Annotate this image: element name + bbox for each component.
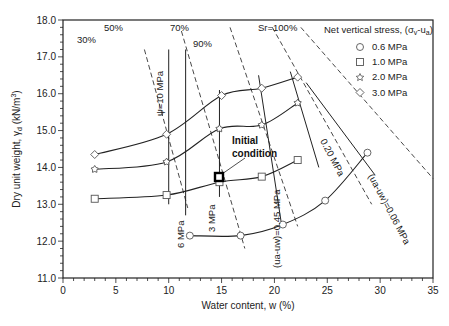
saturation-line bbox=[144, 49, 187, 207]
star-marker-icon bbox=[91, 165, 98, 172]
legend: Net vertical stress, (σv-ua) 0.6 MPa 1.0… bbox=[324, 24, 433, 98]
suction-line bbox=[290, 72, 319, 168]
star-marker-icon bbox=[294, 99, 301, 106]
legend-square-icon bbox=[357, 59, 364, 66]
sr-30-label: 30% bbox=[77, 34, 97, 45]
x-tick-label: 15 bbox=[216, 285, 228, 296]
legend-label-0: 0.6 MPa bbox=[372, 41, 408, 52]
legend-label-1: 1.0 MPa bbox=[372, 56, 408, 67]
diamond-marker-icon bbox=[163, 130, 171, 138]
sr-90-label: 90% bbox=[193, 38, 213, 49]
diamond-marker-icon bbox=[218, 92, 226, 100]
x-tick-label: 30 bbox=[375, 285, 387, 296]
y-axis-title: Dry unit weight, γd (kN/m3) bbox=[10, 90, 23, 207]
legend-title: Net vertical stress, (σv-ua) bbox=[324, 24, 433, 36]
circle-marker-icon bbox=[186, 232, 193, 239]
square-marker-icon bbox=[163, 192, 170, 199]
circle-marker-icon bbox=[364, 149, 371, 156]
circle-marker-icon bbox=[322, 197, 329, 204]
saturation-line bbox=[272, 27, 371, 204]
initial-condition-leader bbox=[222, 158, 245, 174]
square-marker-icon bbox=[91, 195, 98, 202]
legend-diamond-icon bbox=[356, 89, 364, 97]
chart: 0510152025303511.012.013.014.015.016.017… bbox=[0, 0, 449, 326]
initial-condition-label-2: condition bbox=[232, 148, 277, 159]
suction-020-label: 0.20 MPa bbox=[318, 137, 347, 179]
suction-3-label: 3 MPa bbox=[206, 204, 217, 232]
square-marker-icon bbox=[258, 173, 265, 180]
legend-label-3: 3.0 MPa bbox=[372, 87, 408, 98]
y-tick-label: 14.0 bbox=[37, 162, 57, 173]
legend-label-2: 2.0 MPa bbox=[372, 71, 408, 82]
y-tick-label: 16.0 bbox=[37, 88, 57, 99]
legend-star-icon bbox=[356, 74, 364, 81]
y-tick-label: 13.0 bbox=[37, 199, 57, 210]
diamond-marker-icon bbox=[91, 151, 99, 159]
x-tick-label: 35 bbox=[427, 285, 439, 296]
series-curve bbox=[95, 77, 298, 154]
star-marker-icon bbox=[258, 121, 265, 128]
diamond-marker-icon bbox=[258, 84, 266, 92]
x-tick-label: 0 bbox=[60, 285, 66, 296]
y-tick-label: 17.0 bbox=[37, 51, 57, 62]
initial-condition-marker bbox=[215, 173, 223, 181]
x-tick-label: 5 bbox=[113, 285, 119, 296]
suction-10-label: ψ=10 MPa bbox=[154, 70, 165, 116]
legend-circle-icon bbox=[357, 44, 364, 51]
suction-006-label: (ua-uw)=0.06 MPa bbox=[366, 172, 413, 247]
initial-condition-label-1: Initial bbox=[232, 135, 258, 146]
star-marker-icon bbox=[216, 125, 223, 132]
suction-045-label: (ua-uw)=0.45 MPa bbox=[271, 189, 282, 268]
series-curve bbox=[95, 160, 298, 199]
y-tick-label: 15.0 bbox=[37, 125, 57, 136]
x-tick-label: 25 bbox=[322, 285, 334, 296]
sr-50-label: 50% bbox=[104, 22, 124, 33]
sr-100-label: Sr=100% bbox=[258, 22, 298, 33]
y-tick-label: 11.0 bbox=[37, 273, 56, 284]
diamond-marker-icon bbox=[294, 73, 302, 81]
x-tick-label: 20 bbox=[269, 285, 281, 296]
x-axis-title: Water content, w (%) bbox=[202, 300, 295, 311]
sr-70-label: 70% bbox=[170, 22, 190, 33]
suction-6-label: 6 MPa bbox=[175, 220, 186, 248]
y-tick-label: 12.0 bbox=[37, 236, 57, 247]
y-tick-label: 18.0 bbox=[37, 15, 57, 26]
circle-marker-icon bbox=[237, 232, 244, 239]
square-marker-icon bbox=[294, 157, 301, 164]
x-tick-label: 10 bbox=[163, 285, 175, 296]
